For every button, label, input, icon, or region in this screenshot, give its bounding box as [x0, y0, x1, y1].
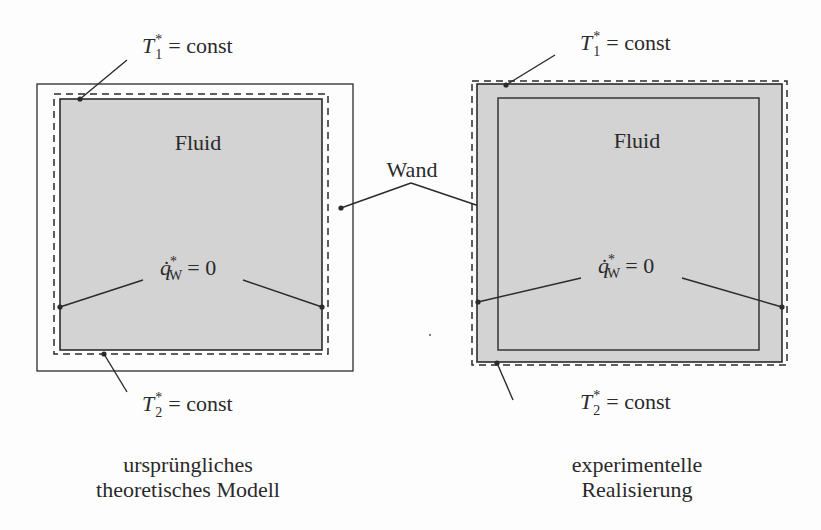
left-caption-line1: ursprüngliches — [123, 452, 253, 477]
left-qw-label: q̇*W= 0 — [160, 254, 216, 283]
left-model: Fluid T*1= const q̇*W= 0 T*2= const ursp… — [37, 32, 353, 502]
heat-transfer-model-diagram: Fluid T*1= const q̇*W= 0 T*2= const ursp… — [0, 0, 821, 530]
left-t2-dot — [101, 351, 106, 356]
wall-dot-left — [338, 205, 343, 210]
wall-annotation: Wand — [338, 157, 490, 212]
left-t1-label: T*1= const — [142, 32, 233, 62]
left-t2-label: T*2= const — [142, 390, 233, 420]
wall-label: Wand — [387, 157, 438, 182]
right-t2-dot — [494, 360, 499, 365]
right-model: Fluid T*1= const q̇*W= 0 T*2= const expe… — [472, 29, 787, 502]
left-caption-line2: theoretisches Modell — [96, 477, 280, 502]
right-qw-label: q̇*W= 0 — [598, 252, 654, 281]
left-qw-dot-right — [319, 304, 324, 309]
left-t1-leader — [80, 60, 127, 99]
wall-leader-left — [341, 183, 411, 208]
right-qw-dot-right — [779, 304, 784, 309]
right-fluid-label: Fluid — [614, 128, 660, 153]
right-caption-line2: Realisierung — [581, 477, 692, 502]
stray-dot — [429, 334, 431, 336]
right-qw-dot-left — [475, 299, 480, 304]
left-fluid-label: Fluid — [175, 130, 221, 155]
right-t1-dot — [503, 82, 508, 87]
left-qw-dot-left — [57, 304, 62, 309]
right-t2-label: T*2= const — [580, 388, 671, 418]
right-caption-line1: experimentelle — [572, 452, 703, 477]
right-t1-label: T*1= const — [580, 29, 671, 59]
left-t2-leader — [104, 354, 127, 392]
right-t2-leader — [497, 363, 513, 400]
left-t1-dot — [77, 96, 82, 101]
